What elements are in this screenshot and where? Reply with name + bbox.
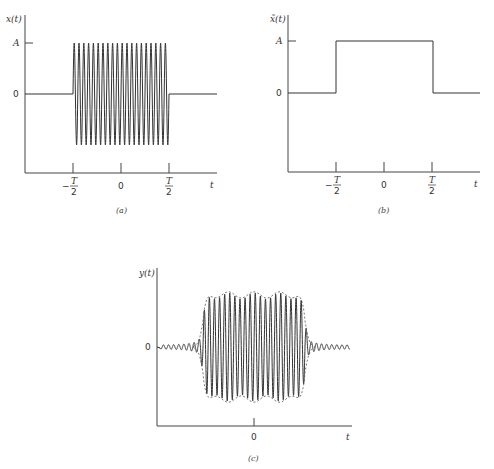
- y-axis-label: y(t): [138, 268, 155, 278]
- svg-text:2: 2: [429, 186, 435, 196]
- svg-text:2: 2: [166, 187, 172, 197]
- caption-b: (b): [378, 206, 389, 215]
- svg-text:T: T: [71, 176, 78, 186]
- signal-rect-pulse: [288, 41, 480, 93]
- y-tick-label-zero: 0: [276, 88, 282, 98]
- panel-b: x̃(t) A 0 − T 2 0 T 2 t (b): [270, 14, 480, 215]
- x-tick-label-half-T: T 2: [165, 176, 173, 197]
- figure-canvas: x(t) A 0 − T 2 0 T 2 t (a) x̃(t) A 0 −: [0, 0, 494, 469]
- x-tick-label-neg-half-T: − T 2: [62, 176, 78, 197]
- panel-a: x(t) A 0 − T 2 0 T 2 t (a): [6, 14, 217, 215]
- y-tick-label-A: A: [275, 36, 283, 46]
- x-axis-label: t: [210, 180, 214, 190]
- x-tick-label-zero: 0: [381, 180, 387, 190]
- signal-y-t: [157, 293, 350, 401]
- x-tick-label-zero: 0: [118, 181, 124, 191]
- x-tick-label-zero: 0: [251, 432, 257, 442]
- caption-c: (c): [248, 454, 259, 463]
- svg-text:T: T: [334, 175, 341, 185]
- x-axis-label: t: [346, 432, 350, 442]
- svg-text:−: −: [62, 181, 70, 191]
- svg-text:2: 2: [71, 187, 77, 197]
- panel-c: y(t) 0 0 t (c): [138, 268, 352, 463]
- x-axis-label: t: [474, 179, 478, 189]
- y-tick-label-zero: 0: [145, 342, 151, 352]
- y-tick-label-A: A: [12, 38, 20, 48]
- y-tick-label-zero: 0: [13, 89, 19, 99]
- y-axis-label: x(t): [6, 14, 22, 24]
- svg-text:2: 2: [334, 186, 340, 196]
- y-axis-label: x̃(t): [270, 14, 286, 24]
- svg-text:T: T: [429, 175, 436, 185]
- signal-x-t: [25, 43, 217, 145]
- svg-text:−: −: [325, 180, 333, 190]
- svg-text:T: T: [166, 176, 173, 186]
- x-tick-label-neg-half-T: − T 2: [325, 175, 341, 196]
- caption-a: (a): [116, 206, 127, 215]
- x-tick-label-half-T: T 2: [428, 175, 436, 196]
